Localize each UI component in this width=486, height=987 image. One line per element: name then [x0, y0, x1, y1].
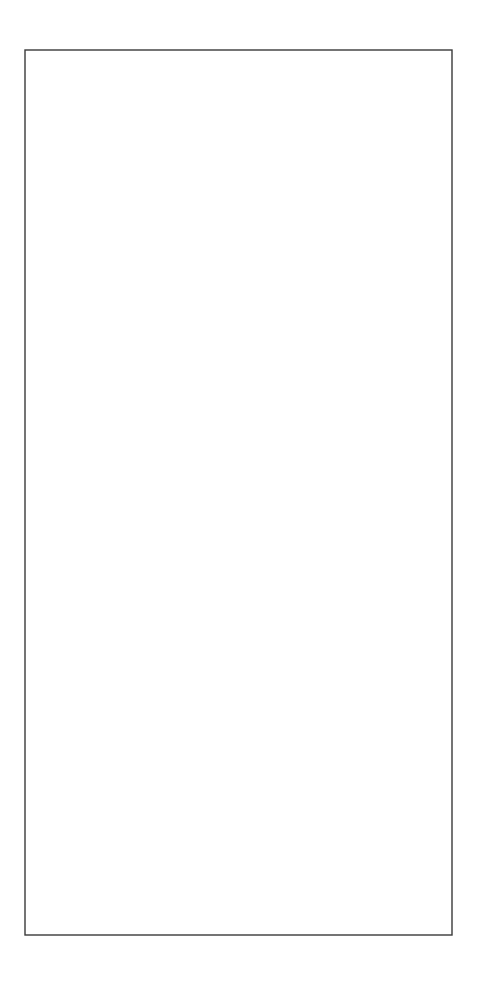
stitch-line	[99, 737, 213, 789]
stitch-line	[176, 693, 339, 731]
stitch-line	[99, 273, 213, 325]
stitch-line	[62, 86, 99, 273]
stitch-line	[144, 252, 307, 290]
stitch-line	[234, 821, 421, 897]
stitch-line	[234, 357, 421, 433]
pinwheel-arm-1	[62, 550, 249, 789]
pinwheel-block-top	[62, 86, 421, 433]
stitch-line	[384, 710, 421, 897]
pinwheel-arm-3	[234, 658, 421, 897]
stitch-line	[339, 550, 415, 731]
pinwheel-arm-1	[62, 86, 249, 325]
stitch-line	[255, 752, 307, 866]
stitch-line	[255, 288, 307, 402]
stitch-line	[211, 626, 249, 789]
stitch-line	[234, 658, 272, 821]
pinwheel-drawing-bottom	[62, 550, 421, 897]
stitch-line	[68, 252, 144, 433]
pinwheel-arm-4	[68, 716, 307, 897]
stitch-line	[62, 550, 249, 626]
pattern-sheet-page	[0, 0, 486, 987]
stitch-line	[176, 581, 228, 695]
stitch-line	[62, 86, 249, 162]
stitch-line	[384, 246, 421, 433]
stitch-line	[228, 86, 415, 117]
stitch-line	[176, 229, 339, 267]
stitch-line	[68, 716, 144, 897]
stitch-line	[234, 194, 272, 357]
stitch-line	[211, 162, 249, 325]
stitch-line	[176, 117, 228, 231]
pinwheel-arm-4	[68, 252, 307, 433]
pinwheel-arm-3	[234, 194, 421, 433]
stitch-line	[144, 716, 307, 754]
stitch-line	[68, 402, 255, 433]
stitch-line	[62, 550, 99, 737]
pinwheel-arm-2	[176, 550, 415, 731]
stitch-line	[68, 866, 255, 897]
stitch-line	[270, 658, 384, 710]
pinwheel-block-bottom	[62, 550, 421, 897]
pinwheel-arm-2	[176, 86, 415, 267]
stitch-line	[228, 550, 415, 581]
stitch-line	[339, 86, 415, 267]
stitch-line	[270, 194, 384, 246]
pinwheel-drawing-top	[62, 86, 421, 433]
